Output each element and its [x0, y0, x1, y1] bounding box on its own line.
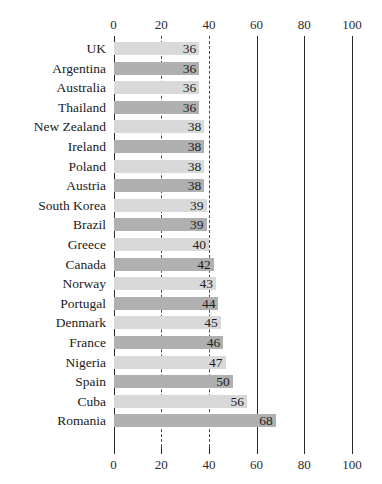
bar-row: UK36 — [0, 42, 382, 55]
bar-value-label: 43 — [183, 275, 213, 292]
category-label-austria: Austria — [0, 177, 106, 194]
bar-row: Canada42 — [0, 258, 382, 271]
bar-value-label: 38 — [171, 118, 201, 135]
category-label-thailand: Thailand — [0, 99, 106, 116]
bar-value-label: 42 — [181, 256, 211, 273]
category-label-cuba: Cuba — [0, 393, 106, 410]
bar-value-label: 47 — [193, 354, 223, 371]
category-label-romania: Romania — [0, 412, 106, 429]
category-label-argentina: Argentina — [0, 60, 106, 77]
category-label-australia: Australia — [0, 79, 106, 96]
bar-value-label: 50 — [200, 373, 230, 390]
category-label-spain: Spain — [0, 373, 106, 390]
bar-row: Norway43 — [0, 277, 382, 290]
category-label-portugal: Portugal — [0, 295, 106, 312]
bar-row: Denmark45 — [0, 316, 382, 329]
bar-row: Ireland38 — [0, 140, 382, 153]
bar-value-label: 46 — [190, 334, 220, 351]
bar-row: Nigeria47 — [0, 356, 382, 369]
bar-value-label: 68 — [243, 412, 273, 429]
bar-row: South Korea39 — [0, 199, 382, 212]
bar-value-label: 38 — [171, 138, 201, 155]
category-label-south-korea: South Korea — [0, 197, 106, 214]
bar-value-label: 36 — [166, 99, 196, 116]
bar-value-label: 36 — [166, 79, 196, 96]
category-label-nigeria: Nigeria — [0, 354, 106, 371]
bar-value-label: 44 — [185, 295, 215, 312]
bar-value-label: 56 — [214, 393, 244, 410]
bar-row: Australia36 — [0, 81, 382, 94]
bar-row: Greece40 — [0, 238, 382, 251]
bar-value-label: 38 — [171, 158, 201, 175]
category-label-uk: UK — [0, 40, 106, 57]
category-label-norway: Norway — [0, 275, 106, 292]
bar-value-label: 36 — [166, 40, 196, 57]
bar-row: Romania68 — [0, 414, 382, 427]
bar-value-label: 40 — [176, 236, 206, 253]
horizontal-bar-chart: 020406080100 UK36Argentina36Australia36T… — [0, 0, 382, 484]
bar-value-label: 39 — [174, 216, 204, 233]
bar-rows: UK36Argentina36Australia36Thailand36New … — [0, 0, 382, 484]
bar-value-label: 39 — [174, 197, 204, 214]
category-label-brazil: Brazil — [0, 216, 106, 233]
bar-row: Cuba56 — [0, 395, 382, 408]
bar-row: Brazil39 — [0, 218, 382, 231]
bar-row: Portugal44 — [0, 297, 382, 310]
bar-value-label: 45 — [188, 314, 218, 331]
bar-row: Poland38 — [0, 160, 382, 173]
category-label-france: France — [0, 334, 106, 351]
bar-row: France46 — [0, 336, 382, 349]
category-label-canada: Canada — [0, 256, 106, 273]
category-label-denmark: Denmark — [0, 314, 106, 331]
bar-value-label: 38 — [171, 177, 201, 194]
bar-row: New Zealand38 — [0, 120, 382, 133]
category-label-greece: Greece — [0, 236, 106, 253]
bar-row: Spain50 — [0, 375, 382, 388]
category-label-ireland: Ireland — [0, 138, 106, 155]
bar-value-label: 36 — [166, 60, 196, 77]
bar-row: Thailand36 — [0, 101, 382, 114]
category-label-poland: Poland — [0, 158, 106, 175]
bar-row: Austria38 — [0, 179, 382, 192]
bar-row: Argentina36 — [0, 62, 382, 75]
category-label-new-zealand: New Zealand — [0, 118, 106, 135]
